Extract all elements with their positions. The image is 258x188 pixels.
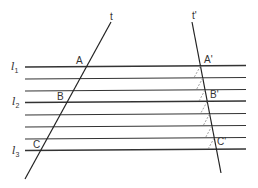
label-l2-sub: 2: [16, 102, 20, 109]
label-point-a: A: [76, 56, 83, 66]
label-l1: l1: [11, 61, 18, 74]
parallel-line: [25, 114, 246, 116]
guide-dashes: [194, 66, 214, 150]
label-l3-sub: 3: [16, 151, 20, 158]
guide-dash: [200, 102, 207, 115]
label-point-b-prime: B': [210, 90, 219, 100]
parallel-line: [25, 126, 246, 128]
guide-dash: [194, 66, 201, 78]
guide-dash: [205, 126, 212, 138]
parallel-lines: [25, 66, 246, 151]
parallel-line: [25, 138, 246, 140]
line-l3: [25, 149, 246, 151]
label-point-a-prime: A': [204, 55, 213, 65]
label-l2: l2: [12, 96, 19, 109]
parallel-line: [25, 78, 246, 80]
label-point-c: C: [33, 140, 40, 150]
label-t-prime: t': [192, 11, 197, 21]
guide-dash: [196, 78, 203, 90]
guide-dash: [203, 114, 210, 126]
label-point-c-prime: C': [217, 137, 226, 147]
label-point-b: B: [57, 92, 64, 102]
diagram-canvas: [0, 0, 258, 188]
guide-dash: [199, 90, 205, 102]
label-l1-sub: 1: [15, 67, 19, 74]
transversal-t: [25, 22, 111, 179]
label-l3: l3: [12, 145, 19, 158]
guide-dash: [208, 138, 214, 150]
label-t: t: [110, 12, 113, 22]
line-l1: [25, 66, 246, 68]
